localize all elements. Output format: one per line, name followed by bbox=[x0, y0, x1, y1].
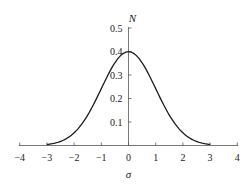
y-tick-label: 0.5 bbox=[110, 23, 123, 34]
y-tick-label: 0.2 bbox=[110, 93, 123, 104]
x-axis: −4−3−2−101234 bbox=[14, 143, 239, 163]
y-axis-label: N bbox=[128, 12, 137, 24]
y-tick-label: 0.1 bbox=[110, 117, 123, 128]
x-tick-label: −3 bbox=[42, 152, 53, 163]
x-tick-label: 4 bbox=[235, 152, 240, 163]
normal-distribution-chart: −4−3−2−101234 0.10.20.30.40.5 σ N bbox=[0, 0, 249, 189]
x-axis-label: σ bbox=[126, 168, 132, 180]
x-tick-label: 3 bbox=[208, 152, 213, 163]
x-tick-label: 1 bbox=[153, 152, 158, 163]
x-tick-label: 2 bbox=[180, 152, 185, 163]
y-axis: 0.10.20.30.40.5 bbox=[110, 23, 132, 146]
x-tick-label: −4 bbox=[14, 152, 25, 163]
x-tick-label: −2 bbox=[69, 152, 80, 163]
y-tick-label: 0.3 bbox=[110, 70, 123, 81]
x-tick-label: 0 bbox=[126, 152, 131, 163]
x-tick-label: −1 bbox=[96, 152, 107, 163]
